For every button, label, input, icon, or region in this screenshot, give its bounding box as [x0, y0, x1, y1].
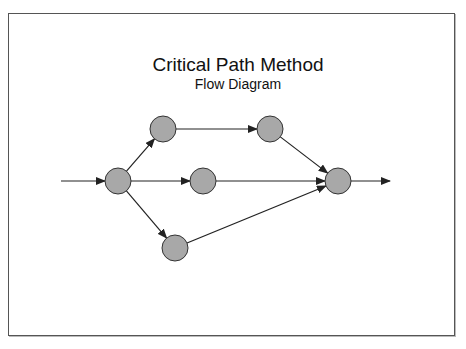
node-top-b [257, 116, 283, 142]
edge-bottom-to-end [187, 186, 326, 243]
node-middle [190, 168, 216, 194]
node-bottom [162, 235, 188, 261]
edge-top-b-to-end [280, 137, 327, 173]
node-top-a [150, 116, 176, 142]
nodes [105, 116, 351, 261]
edge-start-to-bottom [126, 191, 166, 238]
edge-start-to-top-a [127, 139, 155, 171]
node-end [325, 168, 351, 194]
node-start [105, 168, 131, 194]
flow-diagram [0, 0, 466, 349]
